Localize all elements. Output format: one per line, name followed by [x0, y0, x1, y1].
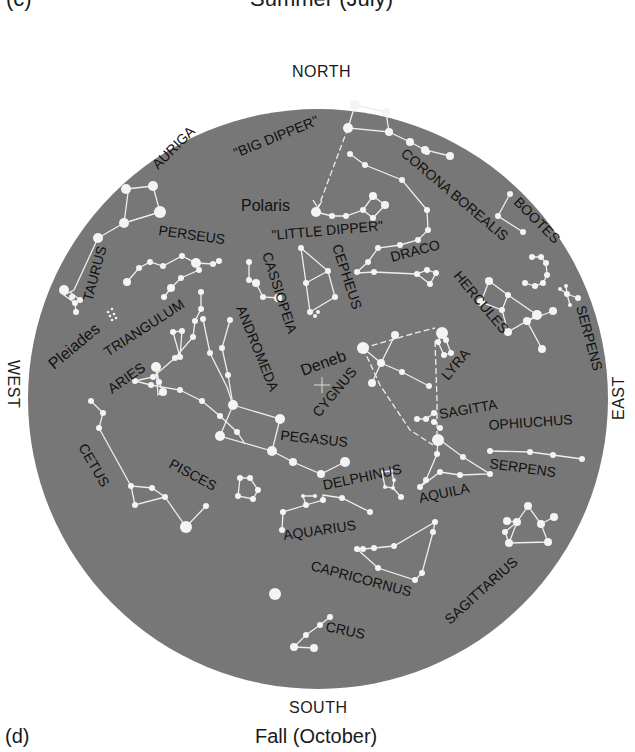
- star-icon: [290, 643, 298, 651]
- pleiades-star-icon: [115, 317, 118, 320]
- star-icon: [316, 310, 320, 314]
- star-icon: [132, 502, 138, 508]
- star-icon: [247, 475, 253, 481]
- star-icon: [180, 521, 192, 533]
- star-icon: [437, 469, 443, 475]
- star-icon: [524, 502, 532, 510]
- star-icon: [332, 294, 338, 300]
- star-icon: [446, 152, 454, 160]
- pleiades-star-icon: [111, 308, 114, 311]
- star-icon: [215, 431, 225, 441]
- star-icon: [167, 284, 175, 292]
- star-icon: [177, 354, 183, 360]
- star-icon: [179, 328, 185, 334]
- star-icon: [177, 387, 183, 393]
- star-icon: [412, 577, 418, 583]
- direction-east: EAST: [610, 376, 628, 420]
- star-icon: [203, 503, 209, 509]
- star-icon: [72, 300, 78, 306]
- star-icon: [460, 454, 466, 460]
- star-icon: [487, 448, 493, 454]
- star-icon: [427, 281, 433, 287]
- star-icon: [532, 310, 542, 320]
- star-icon: [538, 254, 544, 260]
- star-icon: [406, 138, 414, 146]
- star-icon: [219, 345, 225, 351]
- star-icon: [156, 379, 162, 385]
- star-icon: [392, 478, 396, 482]
- star-icon: [329, 213, 335, 219]
- star-icon: [375, 565, 381, 571]
- fall-chart-title: Fall (October): [255, 725, 377, 748]
- star-icon: [367, 509, 373, 515]
- star-icon: [485, 277, 493, 285]
- star-icon: [172, 355, 178, 361]
- pleiades-star-icon: [107, 311, 110, 314]
- star-icon: [385, 128, 393, 136]
- star-icon: [520, 229, 526, 235]
- pleiades-star-icon: [113, 313, 116, 316]
- star-icon: [540, 280, 546, 286]
- star-icon: [88, 398, 94, 404]
- star-icon: [179, 253, 185, 259]
- star-icon: [357, 342, 369, 354]
- star-icon: [549, 307, 557, 315]
- star-icon: [162, 494, 168, 500]
- star-icon: [544, 538, 552, 546]
- star-icon: [216, 258, 222, 264]
- star-icon: [487, 471, 493, 477]
- star-icon: [432, 519, 438, 525]
- pleiades-star-icon: [109, 315, 112, 318]
- star-icon: [579, 456, 585, 462]
- star-icon: [532, 283, 538, 289]
- star-icon: [190, 334, 196, 340]
- star-icon: [414, 271, 420, 277]
- star-icon: [227, 317, 233, 323]
- star-icon: [303, 632, 309, 638]
- star-icon: [154, 206, 166, 218]
- star-icon: [513, 518, 521, 526]
- star-icon: [343, 213, 349, 219]
- star-icon: [343, 123, 353, 133]
- star-icon: [93, 233, 103, 243]
- star-icon: [198, 306, 204, 312]
- star-icon: [432, 434, 444, 446]
- star-icon: [252, 279, 260, 287]
- star-icon: [200, 316, 206, 322]
- star-icon: [575, 295, 581, 301]
- star-icon: [246, 277, 252, 283]
- star-icon: [544, 272, 550, 278]
- star-icon: [360, 546, 366, 552]
- star-icon: [235, 493, 241, 499]
- star-icon: [391, 331, 399, 339]
- star-icon: [298, 245, 304, 251]
- star-icon: [151, 362, 161, 372]
- star-icon: [96, 425, 102, 431]
- star-icon: [398, 494, 404, 500]
- star-icon: [391, 486, 395, 490]
- star-icon: [381, 201, 389, 209]
- star-icon: [313, 494, 317, 498]
- star-icon: [178, 275, 184, 281]
- star-icon: [128, 483, 134, 489]
- star-icon: [425, 227, 431, 233]
- star-icon: [435, 339, 441, 345]
- star-icon: [150, 374, 156, 380]
- star-icon: [354, 546, 360, 552]
- star-icon: [119, 218, 129, 228]
- star-icon: [340, 457, 350, 467]
- star-icon: [339, 495, 345, 501]
- star-icon: [123, 278, 131, 286]
- star-icon: [350, 100, 360, 110]
- star-icon: [148, 382, 154, 388]
- star-icon: [303, 502, 309, 508]
- star-icon: [228, 400, 238, 410]
- star-icon: [136, 265, 142, 271]
- star-icon: [234, 429, 240, 435]
- star-icon: [377, 359, 385, 367]
- star-icon: [558, 287, 562, 291]
- star-icon: [383, 485, 387, 489]
- star-icon: [371, 545, 377, 551]
- star-icon: [423, 477, 429, 483]
- star-icon: [59, 285, 69, 295]
